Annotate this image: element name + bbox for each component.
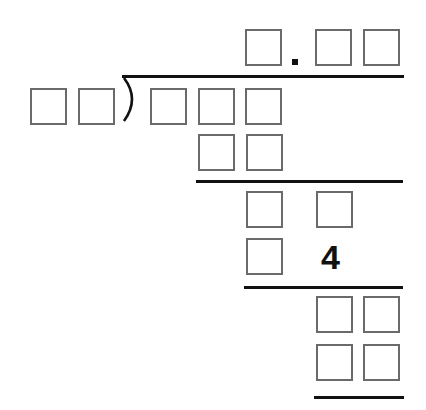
decimal-point [292,59,298,65]
work-row5-box2[interactable] [363,344,400,381]
subtraction-line-2 [244,286,403,289]
division-bracket-icon [120,77,142,123]
work-row1-box2[interactable] [246,134,283,171]
dividend-ones-box[interactable] [245,88,282,125]
dividend-hundreds-box[interactable] [150,88,187,125]
divisor-tens-box[interactable] [30,88,67,125]
work-row3-box1[interactable] [246,238,283,275]
work-row2-box1[interactable] [246,191,283,228]
divisor-ones-box[interactable] [78,88,115,125]
quotient-hundredths-box[interactable] [363,29,400,66]
subtraction-line-3 [314,396,404,399]
subtraction-line-1 [196,180,403,183]
given-digit: 4 [321,240,340,274]
work-row4-box2[interactable] [363,296,400,333]
division-bar [122,75,404,78]
dividend-tens-box[interactable] [198,88,235,125]
work-row1-box1[interactable] [198,134,235,171]
work-row5-box1[interactable] [316,344,353,381]
work-row4-box1[interactable] [316,296,353,333]
work-row2-box2[interactable] [316,191,353,228]
quotient-ones-box[interactable] [245,29,282,66]
quotient-tenths-box[interactable] [315,29,352,66]
